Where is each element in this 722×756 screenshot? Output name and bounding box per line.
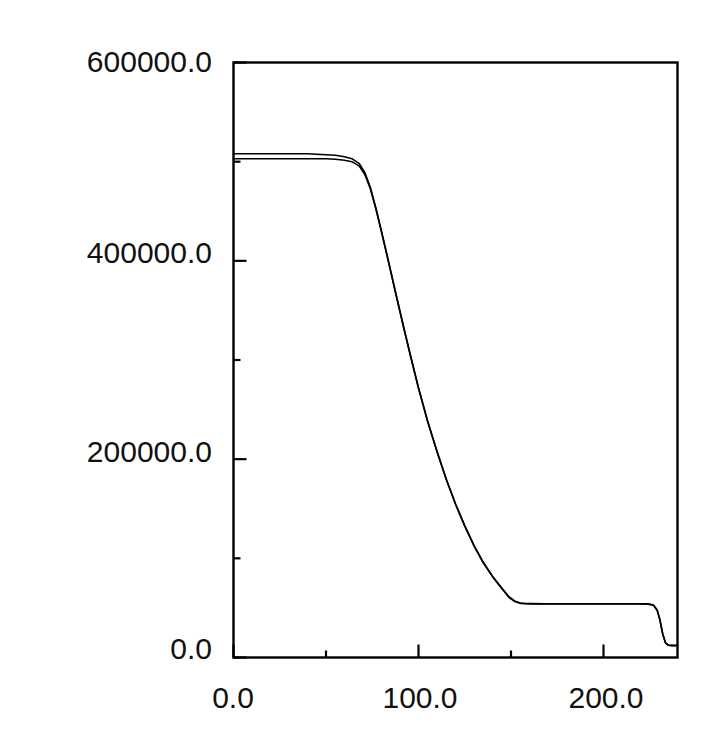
x-tick-label-100: 100.0 <box>362 683 478 713</box>
y-tick-label-200000: 200000.0 <box>32 437 212 467</box>
chart-container: 600000.0 400000.0 200000.0 0.0 0.0 100.0… <box>0 0 722 756</box>
y-tick-label-0: 0.0 <box>32 634 212 664</box>
x-tick-label-0: 0.0 <box>178 683 288 713</box>
y-tick-label-400000: 400000.0 <box>32 238 212 268</box>
y-tick-label-600000: 600000.0 <box>32 47 212 77</box>
x-tick-label-200: 200.0 <box>548 683 664 713</box>
plot-frame <box>234 63 678 658</box>
